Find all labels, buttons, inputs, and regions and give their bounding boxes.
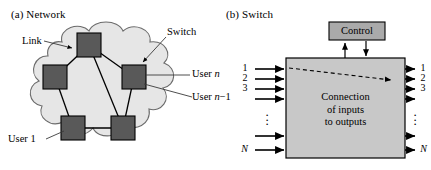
node-top <box>77 33 101 57</box>
node-left <box>43 65 67 89</box>
input-label-3: 3 <box>240 83 250 93</box>
input-ellipsis: ... <box>263 110 271 124</box>
node-right <box>122 65 146 89</box>
output-ellipsis: ... <box>411 110 419 124</box>
label-link: Link <box>22 36 42 47</box>
switch-fabric-line-3: to outputs <box>286 116 405 129</box>
panel-network: (a) Network <box>0 0 215 170</box>
node-bottom-left <box>61 116 85 140</box>
panel-switch: (b) Switch <box>215 0 431 170</box>
output-label-n: N <box>418 144 429 154</box>
figure-network-and-switch: (a) Network <box>0 0 431 170</box>
input-label-n: N <box>239 144 250 154</box>
control-arrows <box>345 41 366 58</box>
label-switch: Switch <box>167 27 196 38</box>
output-label-3: 3 <box>418 83 428 93</box>
control-label: Control <box>329 25 385 36</box>
node-bottom-right <box>111 116 135 140</box>
label-user-1: User 1 <box>8 134 36 145</box>
label-user-n-prefix: User <box>192 68 214 79</box>
switch-fabric-text: Connection of inputs to outputs <box>286 91 405 129</box>
label-user-n-minus-1-prefix: User <box>192 91 214 102</box>
switch-fabric-line-2: of inputs <box>286 104 405 117</box>
switch-fabric-line-1: Connection <box>286 91 405 104</box>
